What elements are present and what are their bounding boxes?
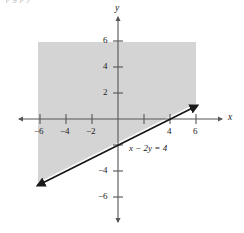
equation-label: x − 2y = 4 xyxy=(129,144,167,153)
x-tick-label-6: 6 xyxy=(193,127,198,136)
y-tick-label-4: 4 xyxy=(103,62,108,71)
coordinate-plane-svg xyxy=(0,0,244,233)
y-axis-label: y xyxy=(115,4,119,14)
x-tick-label-minus6: −6 xyxy=(34,127,44,136)
y-tick-label-2: 2 xyxy=(103,88,108,97)
y-tick-label-minus6: −6 xyxy=(98,192,108,201)
x-tick-label-minus2: −2 xyxy=(86,127,96,136)
x-tick-label-minus4: −4 xyxy=(60,127,70,136)
x-axis-label: x xyxy=(228,113,232,123)
shaded-region xyxy=(38,42,196,182)
shaded-half-plane xyxy=(38,42,196,182)
x-tick-label-4: 4 xyxy=(167,127,172,136)
y-tick-label-minus4: −4 xyxy=(98,166,108,175)
y-tick-label-6: 6 xyxy=(103,36,108,45)
graph-figure: p g p y xyxy=(0,0,244,233)
